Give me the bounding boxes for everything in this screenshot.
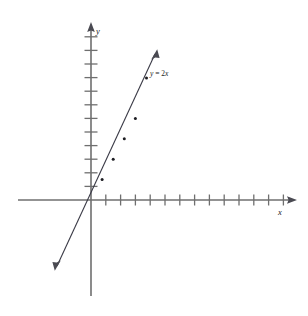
- lattice-point: [112, 158, 115, 161]
- lattice-point: [101, 178, 104, 181]
- equation-operator: =: [153, 69, 161, 78]
- lattice-point: [145, 77, 148, 80]
- function-line-group: [52, 49, 159, 271]
- coordinate-plane-svg: y x y = 2x: [0, 0, 308, 316]
- function-line-arrow-up-icon: [151, 49, 159, 59]
- function-line-y-equals-2x: [57, 54, 155, 266]
- equation-variable: x: [164, 69, 169, 78]
- equation-label: y = 2x: [149, 69, 169, 78]
- function-line-arrow-down-icon: [52, 260, 60, 270]
- graph-figure: y x y = 2x: [0, 0, 308, 316]
- lattice-point: [123, 137, 126, 140]
- y-axis-label: y: [95, 26, 100, 36]
- lattice-point: [134, 117, 137, 120]
- x-axis-label: x: [277, 207, 282, 217]
- y-axis-group: [85, 22, 98, 296]
- lattice-points: [101, 77, 148, 182]
- x-axis-group: [18, 195, 297, 206]
